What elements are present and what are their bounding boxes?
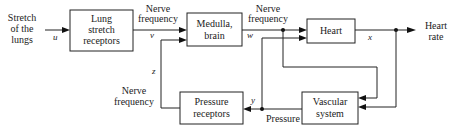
input-label: Stretch of the lungs <box>8 12 36 45</box>
svg-text:Vascular: Vascular <box>313 96 348 107</box>
signal-y: y <box>250 95 255 105</box>
arrow-icon <box>358 95 366 101</box>
svg-text:Stretch: Stretch <box>8 12 36 23</box>
svg-text:Pressure: Pressure <box>195 96 229 107</box>
arrow-icon <box>179 27 187 33</box>
block-medulla-brain: Medulla, brain <box>187 13 242 46</box>
arrow-icon <box>407 27 416 33</box>
svg-text:frequency: frequency <box>138 13 178 24</box>
svg-text:w: w <box>247 30 253 40</box>
svg-text:receptors: receptors <box>193 108 230 119</box>
svg-text:Heart: Heart <box>320 25 342 36</box>
arrow-icon <box>358 104 366 110</box>
block-heart: Heart <box>307 19 355 43</box>
arrow-icon <box>299 35 307 41</box>
block-vascular-system: Vascular system <box>302 92 358 124</box>
svg-text:rate: rate <box>429 31 445 42</box>
block-diagram: Stretch of the lungs u Lung stretch rece… <box>0 0 459 132</box>
signal-x: x <box>367 32 372 42</box>
svg-text:Nerve: Nerve <box>122 85 147 96</box>
signal-v-label: Nerve frequency v <box>138 3 178 40</box>
signal-z-label: z Nerve frequency <box>114 66 156 107</box>
arrow-icon <box>243 106 251 112</box>
block-pressure-receptors: Pressure receptors <box>180 92 243 124</box>
svg-text:brain: brain <box>204 30 225 41</box>
arrow-icon <box>179 37 187 43</box>
svg-text:of the: of the <box>10 23 34 34</box>
junction-y <box>260 107 264 111</box>
block-lung-stretch-receptors: Lung stretch receptors <box>70 10 133 51</box>
svg-text:Lung: Lung <box>91 13 112 24</box>
svg-text:lungs: lungs <box>11 34 33 45</box>
svg-text:system: system <box>316 108 344 119</box>
svg-text:frequency: frequency <box>114 96 154 107</box>
svg-text:Medulla,: Medulla, <box>197 18 233 29</box>
signal-y-label: Pressure <box>266 113 300 124</box>
signal-w-label: Nerve frequency w <box>247 3 288 40</box>
svg-text:frequency: frequency <box>248 13 288 24</box>
arrow-icon <box>299 27 307 33</box>
signal-u: u <box>53 32 58 42</box>
svg-text:z: z <box>151 66 156 76</box>
output-label: Heart rate <box>425 20 447 42</box>
svg-text:v: v <box>150 30 154 40</box>
arrow-icon <box>62 27 70 33</box>
wire-y-to-heart <box>262 38 302 109</box>
svg-text:stretch: stretch <box>88 24 115 35</box>
svg-text:Heart: Heart <box>425 20 447 31</box>
wire-z <box>161 40 182 108</box>
svg-text:receptors: receptors <box>83 35 120 46</box>
